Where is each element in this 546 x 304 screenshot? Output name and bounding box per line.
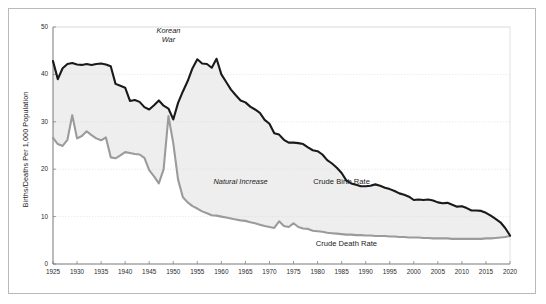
x-tick-label-1960: 1960 <box>208 268 234 275</box>
x-tick-label-2005: 2005 <box>425 268 451 275</box>
y-axis-title: Births/Deaths Per 1,000 Population <box>21 65 30 235</box>
x-tick-label-1980: 1980 <box>305 268 331 275</box>
x-tick-label-1945: 1945 <box>136 268 162 275</box>
annotation-crude-birth-rate: Crude Birth Rate <box>313 177 370 186</box>
x-tick-label-1950: 1950 <box>160 268 186 275</box>
x-tick-label-2020: 2020 <box>497 268 523 275</box>
x-tick-label-1995: 1995 <box>377 268 403 275</box>
annotation-korean-war-line2: War <box>157 35 181 44</box>
annotation-korean-war: KoreanWar <box>157 26 181 44</box>
x-tick-label-1990: 1990 <box>353 268 379 275</box>
x-tick-label-1965: 1965 <box>232 268 258 275</box>
x-tick-label-1940: 1940 <box>112 268 138 275</box>
y-tick-label-10: 10 <box>30 213 48 220</box>
y-tick-label-40: 40 <box>30 70 48 77</box>
chart-plot-svg <box>0 0 546 304</box>
x-tick-label-1925: 1925 <box>40 268 66 275</box>
y-tick-label-50: 50 <box>30 23 48 30</box>
x-tick-label-1975: 1975 <box>281 268 307 275</box>
y-tick-label-30: 30 <box>30 118 48 125</box>
x-tick-label-1930: 1930 <box>64 268 90 275</box>
x-tick-label-1935: 1935 <box>88 268 114 275</box>
x-tick-label-1955: 1955 <box>184 268 210 275</box>
x-tick-label-2010: 2010 <box>449 268 475 275</box>
annotation-natural-increase: Natural Increase <box>213 177 267 186</box>
x-tick-label-1985: 1985 <box>329 268 355 275</box>
x-tick-label-2000: 2000 <box>401 268 427 275</box>
x-tick-label-1970: 1970 <box>256 268 282 275</box>
y-tick-label-20: 20 <box>30 165 48 172</box>
annotation-korean-war-line1: Korean <box>157 26 181 35</box>
y-tick-label-0: 0 <box>30 260 48 267</box>
annotation-crude-death-rate: Crude Death Rate <box>316 239 377 248</box>
x-tick-label-2015: 2015 <box>473 268 499 275</box>
chart-figure: Births/Deaths Per 1,000 Population 19251… <box>0 0 546 304</box>
